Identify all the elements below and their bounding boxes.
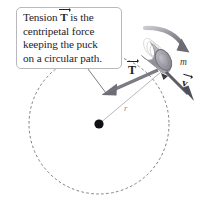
physics-diagram-figure: Tension T is the centripetal force keepi…: [0, 0, 202, 215]
callout-line-2: centripetal force: [23, 25, 119, 39]
circle-center-dot: [94, 119, 103, 128]
callout-line-1: Tension T is the: [23, 11, 119, 25]
mass-label: m: [180, 57, 187, 67]
tension-label-letter: T: [128, 63, 136, 77]
callout-text-block: Tension T is the centripetal force keepi…: [23, 11, 119, 65]
tension-vector-label: T: [128, 63, 136, 78]
tension-symbol-letter: T: [60, 11, 67, 23]
callout-leader-line: [88, 69, 106, 93]
callout-line-4: on a circular path.: [23, 52, 119, 66]
callout-line-3: keeping the puck: [23, 38, 119, 52]
radius-line: [99, 72, 161, 124]
tension-explanation-callout: Tension T is the centripetal force keepi…: [16, 7, 122, 69]
tension-vector-symbol-inline: T: [60, 11, 67, 25]
callout-line-1-before: Tension: [23, 11, 60, 23]
tension-vector-glyph: T: [128, 63, 136, 78]
callout-line-1-after: is the: [68, 11, 94, 23]
vector-arrowhead: [137, 59, 139, 63]
vector-arrowhead: [69, 8, 71, 12]
radius-label: r: [124, 103, 127, 113]
